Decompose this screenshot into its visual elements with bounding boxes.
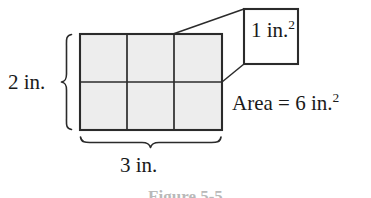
area-rectangle-figure: 2 in. 3 in. 1 in.2 Area = 6 in.2 Figure … — [0, 0, 371, 198]
unit-square-label-text: 1 in. — [251, 18, 288, 42]
area-label-exponent: 2 — [332, 90, 339, 105]
area-label: Area = 6 in.2 — [232, 93, 339, 114]
grid-cell — [174, 34, 222, 82]
height-label: 2 in. — [8, 72, 45, 93]
grid-cell — [127, 34, 174, 82]
width-label-text: 3 in. — [120, 153, 157, 177]
height-label-text: 2 in. — [8, 70, 45, 94]
figure-caption-cropped: Figure 5-5 — [0, 188, 371, 198]
area-label-text: Area = 6 in. — [232, 91, 332, 115]
grid-cell — [80, 82, 127, 130]
callout-connector-top-line — [173, 9, 244, 34]
width-brace-icon — [81, 137, 222, 148]
unit-square-label: 1 in.2 — [251, 20, 295, 41]
callout-connector-bottom-line — [222, 64, 244, 82]
grid-cell — [127, 82, 174, 130]
height-brace-icon — [62, 35, 72, 130]
grid-cell — [80, 34, 127, 82]
unit-square-label-exponent: 2 — [288, 17, 295, 32]
width-label: 3 in. — [120, 155, 157, 176]
grid-cell — [174, 82, 222, 130]
